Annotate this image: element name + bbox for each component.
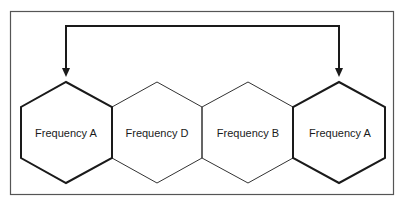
diagram-frame: [11, 12, 394, 195]
cell-label: Frequency B: [217, 127, 279, 139]
cell-label: Frequency A: [309, 127, 371, 139]
cell-label: Frequency A: [35, 127, 97, 139]
frequency-reuse-diagram: Frequency A Frequency D Frequency B Freq…: [0, 0, 402, 200]
cell-label: Frequency D: [126, 127, 189, 139]
